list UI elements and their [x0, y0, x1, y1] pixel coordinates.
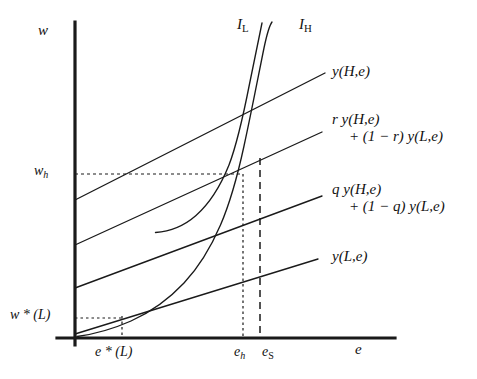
tick-label-w-h: wh: [34, 163, 48, 180]
curve-label-y-H-e: y(H,e): [332, 63, 370, 80]
output-lines-group: [75, 73, 325, 334]
tick-label-w-star-L: w * (L): [10, 307, 50, 323]
curve-label-q-mix-line2: + (1 − q) y(L,e): [332, 198, 445, 215]
curve-label-I-L-sub: L: [242, 22, 249, 34]
tick-label-e-S: eS: [262, 344, 274, 361]
line-y-L-e: [75, 259, 318, 334]
y-axis-label: w: [38, 22, 48, 39]
line-y-H-e: [75, 73, 325, 200]
curve-label-q-mix: q y(H,e) + (1 − q) y(L,e): [332, 181, 445, 216]
indifference-curves-group: [77, 22, 272, 337]
guide-lines-group: [75, 158, 260, 338]
tick-label-w-h-sub: h: [43, 169, 48, 180]
tick-label-e-h-sub: h: [240, 350, 245, 361]
curve-label-r-mix-line2: + (1 − r) y(L,e): [332, 128, 443, 145]
curve-label-r-mix: r y(H,e) + (1 − r) y(L,e): [332, 111, 443, 146]
tick-label-e-star-L: e * (L): [95, 344, 132, 360]
curve-label-r-mix-line1: r y(H,e): [332, 111, 379, 127]
line-q-mix: [75, 196, 322, 288]
curve-label-I-L: IL: [237, 16, 249, 34]
curve-label-y-L-e: y(L,e): [332, 248, 367, 265]
tick-label-w-h-base: w: [34, 163, 43, 178]
curve-label-I-H-sub: H: [304, 22, 312, 34]
tick-label-e-h: eh: [234, 344, 245, 361]
signalling-equilibrium-figure: w e wh w * (L) e * (L) eh eS IL IH y(H,e…: [0, 0, 477, 379]
curve-I-H: [77, 22, 272, 337]
tick-label-e-S-sub: S: [268, 350, 274, 361]
x-axis-label: e: [355, 341, 362, 358]
line-r-mix: [75, 132, 322, 245]
curve-label-q-mix-line1: q y(H,e): [332, 181, 381, 197]
curve-label-I-H: IH: [299, 16, 312, 34]
